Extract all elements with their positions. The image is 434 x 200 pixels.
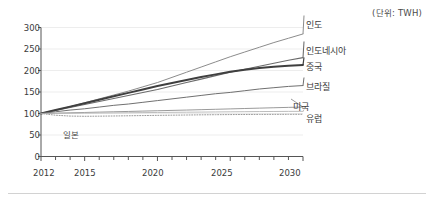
- series-label-brazil: 브라질: [306, 80, 330, 93]
- series-label-europe: 유럽: [306, 112, 322, 125]
- chart-figure: (단위: TWH) 300 250 200 150 100 50 0 2012 …: [0, 0, 434, 200]
- series-line-brazil: [41, 86, 303, 114]
- y-tick-label-300: 300: [16, 23, 40, 33]
- series-label-japan: 일본: [63, 128, 79, 140]
- y-tick-label-50: 50: [16, 130, 40, 140]
- x-tick-label-2020: 2020: [142, 168, 164, 178]
- series-label-china: 중국: [306, 60, 322, 73]
- x-tick-label-2030: 2030: [279, 168, 301, 178]
- series-line-china: [41, 65, 303, 114]
- y-tick-label-250: 250: [16, 44, 40, 54]
- unit-note: (단위: TWH): [372, 6, 422, 18]
- series-line-india: [41, 34, 303, 114]
- series-label-indonesia: 인도네시아: [306, 44, 347, 57]
- x-tick-label-2012: 2012: [33, 168, 55, 178]
- y-tick-label-200: 200: [16, 66, 40, 76]
- x-tick-label-2015: 2015: [74, 168, 96, 178]
- series-label-india: 인도: [306, 18, 322, 31]
- bottom-divider: [8, 193, 426, 194]
- x-tick-label-2025: 2025: [211, 168, 233, 178]
- y-tick-label-150: 150: [16, 87, 40, 97]
- y-tick-label-100: 100: [16, 109, 40, 119]
- y-tick-label-0: 0: [16, 152, 40, 162]
